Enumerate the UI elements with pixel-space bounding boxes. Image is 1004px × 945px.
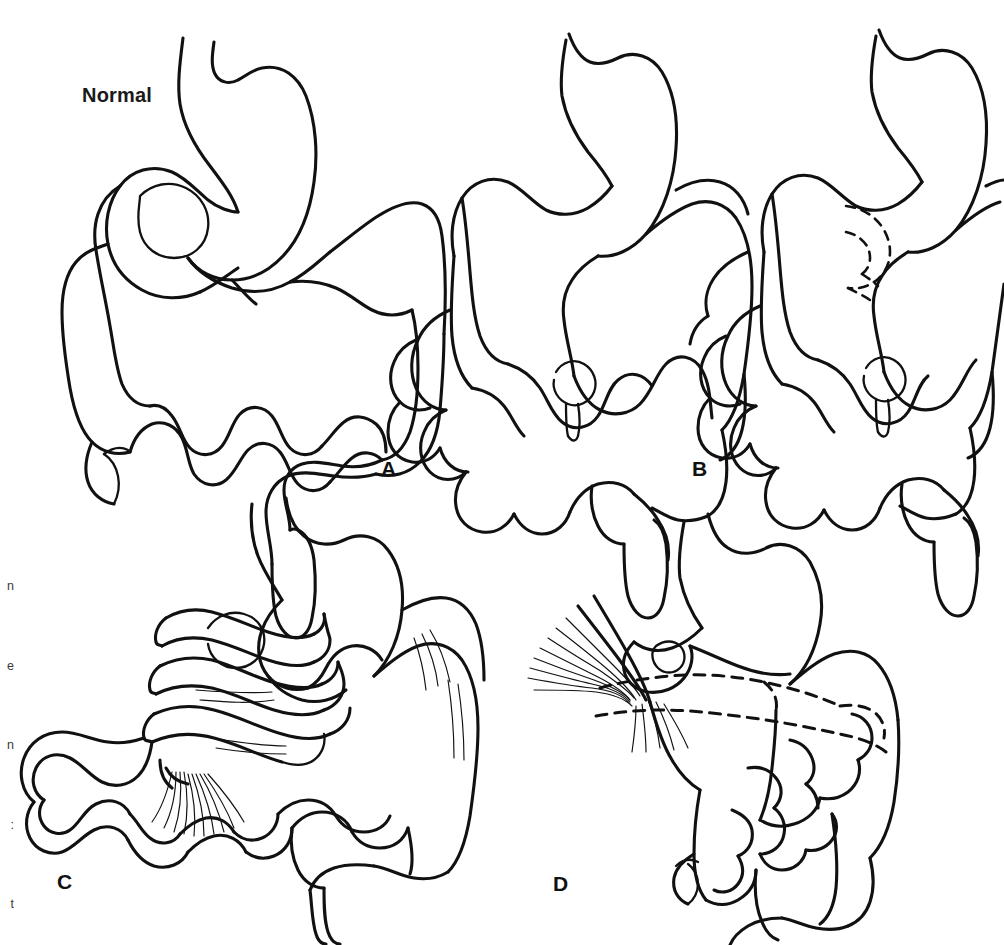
panel-d-appendix-lower: [674, 854, 698, 904]
panel-d-small-bowel-loops: [694, 710, 872, 905]
panel-d-descending-colon-rectum: [730, 814, 848, 945]
panel-d-artwork: [0, 0, 1004, 945]
panel-d-stomach: [634, 514, 822, 684]
figure-container: n e n : t v d . d . s d ll g Normal A B …: [0, 0, 1004, 945]
panel-d-ladd-bands: [528, 596, 700, 790]
